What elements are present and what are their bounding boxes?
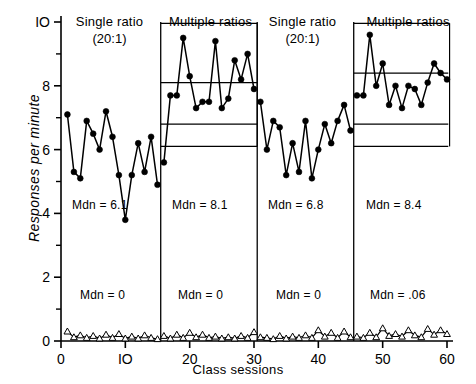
data-point-filled-circle xyxy=(425,80,431,86)
data-point-filled-circle xyxy=(393,83,399,89)
data-point-filled-circle xyxy=(77,175,83,181)
data-point-open-triangle xyxy=(212,333,219,339)
data-point-open-triangle xyxy=(379,325,386,331)
x-axis-label: Class sessions xyxy=(0,362,476,377)
data-point-filled-circle xyxy=(193,105,199,111)
data-point-open-triangle xyxy=(341,328,348,334)
data-point-filled-circle xyxy=(309,175,315,181)
data-point-filled-circle xyxy=(187,73,193,79)
data-point-filled-circle xyxy=(65,112,71,118)
data-point-filled-circle xyxy=(200,99,206,105)
y-tick-label: IO xyxy=(35,14,50,30)
data-point-filled-circle xyxy=(135,140,141,146)
data-point-open-triangle xyxy=(225,334,232,340)
data-point-filled-circle xyxy=(412,86,418,92)
data-point-filled-circle xyxy=(213,38,219,44)
data-point-filled-circle xyxy=(110,134,116,140)
data-point-open-triangle xyxy=(161,333,168,339)
data-point-open-triangle xyxy=(276,333,283,339)
data-point-open-triangle xyxy=(444,331,451,337)
data-point-filled-circle xyxy=(122,217,128,223)
data-point-filled-circle xyxy=(386,102,392,108)
data-point-filled-circle xyxy=(168,93,174,99)
chart-canvas: 02468IO0IO2030405060 xyxy=(0,0,476,384)
data-point-open-triangle xyxy=(366,329,373,335)
data-point-filled-circle xyxy=(444,77,450,83)
data-point-open-triangle xyxy=(199,331,206,337)
data-point-filled-circle xyxy=(335,118,341,124)
panel-subtitle-1: (20:1) xyxy=(62,31,157,46)
data-point-open-triangle xyxy=(392,331,399,337)
panel-title-1: Single ratio xyxy=(62,14,157,29)
data-point-filled-circle xyxy=(341,102,347,108)
median-label-top-2: Mdn = 8.1 xyxy=(172,198,228,212)
data-point-filled-circle xyxy=(303,118,309,124)
data-point-open-triangle xyxy=(328,329,335,335)
median-label-bottom-4: Mdn = .06 xyxy=(370,288,426,302)
median-label-bottom-3: Mdn = 0 xyxy=(276,288,321,302)
panel-subtitle-3: (20:1) xyxy=(255,31,350,46)
panel-title-4: Multiple ratios xyxy=(352,14,464,29)
data-point-filled-circle xyxy=(142,169,148,175)
data-point-open-triangle xyxy=(90,333,97,339)
data-point-open-triangle xyxy=(103,331,110,337)
panel-title-2: Multiple ratios xyxy=(158,14,263,29)
responses-line-segment xyxy=(357,35,447,108)
data-point-filled-circle xyxy=(232,57,238,63)
chart-figure: 02468IO0IO2030405060 Responses per minut… xyxy=(0,0,476,384)
data-point-open-triangle xyxy=(109,334,116,340)
data-point-filled-circle xyxy=(399,105,405,111)
data-point-filled-circle xyxy=(418,102,424,108)
data-point-filled-circle xyxy=(361,93,367,99)
y-tick-label: 2 xyxy=(42,269,50,285)
data-point-filled-circle xyxy=(251,86,257,92)
data-point-filled-circle xyxy=(116,172,122,178)
data-point-filled-circle xyxy=(155,182,161,188)
median-label-bottom-1: Mdn = 0 xyxy=(80,288,125,302)
data-point-filled-circle xyxy=(373,83,379,89)
data-point-filled-circle xyxy=(406,83,412,89)
tick-labels-layer: 02468IO0IO2030405060 xyxy=(35,14,455,367)
data-point-filled-circle xyxy=(245,51,251,57)
data-point-open-triangle xyxy=(437,327,444,333)
data-point-open-triangle xyxy=(424,326,431,332)
data-point-filled-circle xyxy=(367,32,373,38)
data-point-filled-circle xyxy=(354,93,360,99)
data-point-filled-circle xyxy=(225,96,231,102)
data-point-filled-circle xyxy=(328,140,334,146)
median-label-top-1: Mdn = 6.1 xyxy=(72,198,128,212)
data-point-filled-circle xyxy=(296,169,302,175)
data-point-filled-circle xyxy=(380,61,386,67)
data-point-filled-circle xyxy=(161,160,167,166)
data-point-filled-circle xyxy=(277,124,283,130)
data-point-open-triangle xyxy=(186,329,193,335)
data-point-filled-circle xyxy=(315,147,321,153)
data-point-filled-circle xyxy=(180,35,186,41)
y-axis-label: Responses per minute xyxy=(26,68,42,268)
data-point-open-triangle xyxy=(289,333,296,339)
data-point-filled-circle xyxy=(71,169,77,175)
data-point-filled-circle xyxy=(174,93,180,99)
data-point-filled-circle xyxy=(322,121,328,127)
data-point-filled-circle xyxy=(219,105,225,111)
median-label-top-4: Mdn = 8.4 xyxy=(366,198,422,212)
data-point-open-triangle xyxy=(251,329,258,335)
panel-title-3: Single ratio xyxy=(255,14,350,29)
data-point-open-triangle xyxy=(116,331,123,337)
y-tick-label: 0 xyxy=(42,333,50,349)
data-point-open-triangle xyxy=(173,331,180,337)
data-point-filled-circle xyxy=(290,140,296,146)
data-point-open-triangle xyxy=(77,332,84,338)
responses-line-segment xyxy=(260,102,350,179)
data-point-open-triangle xyxy=(315,327,322,333)
data-point-open-triangle xyxy=(405,327,412,333)
median-label-bottom-2: Mdn = 0 xyxy=(178,288,223,302)
y-tick-label: 6 xyxy=(42,142,50,158)
data-point-filled-circle xyxy=(258,99,264,105)
data-point-filled-circle xyxy=(206,99,212,105)
data-point-filled-circle xyxy=(90,131,96,137)
data-point-filled-circle xyxy=(270,118,276,124)
y-tick-label: 4 xyxy=(42,205,50,221)
median-label-top-3: Mdn = 6.8 xyxy=(268,198,324,212)
data-point-filled-circle xyxy=(438,70,444,76)
